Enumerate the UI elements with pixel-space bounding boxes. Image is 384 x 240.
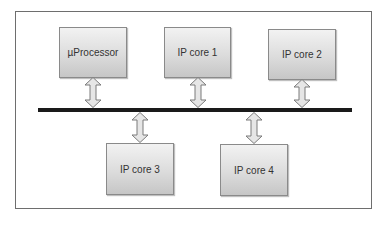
double-arrow-icon	[245, 112, 263, 144]
double-arrow-icon	[293, 79, 311, 108]
block-label: IP core 1	[178, 47, 218, 58]
block-label: µProcessor	[68, 47, 119, 58]
system-bus	[38, 108, 352, 112]
block-ip-core-1: IP core 1	[164, 27, 231, 78]
double-arrow-icon	[131, 112, 149, 143]
block-label: IP core 3	[120, 164, 160, 175]
block-label: IP core 4	[234, 165, 274, 176]
double-arrow-icon	[84, 77, 102, 108]
block-label: IP core 2	[282, 49, 322, 60]
double-arrow-icon	[189, 77, 207, 108]
block-ip-core-2: IP core 2	[268, 29, 336, 80]
block-ip-core-4: IP core 4	[220, 144, 288, 196]
block-ip-core-3: IP core 3	[106, 143, 174, 195]
block-uprocessor: µProcessor	[59, 27, 127, 78]
